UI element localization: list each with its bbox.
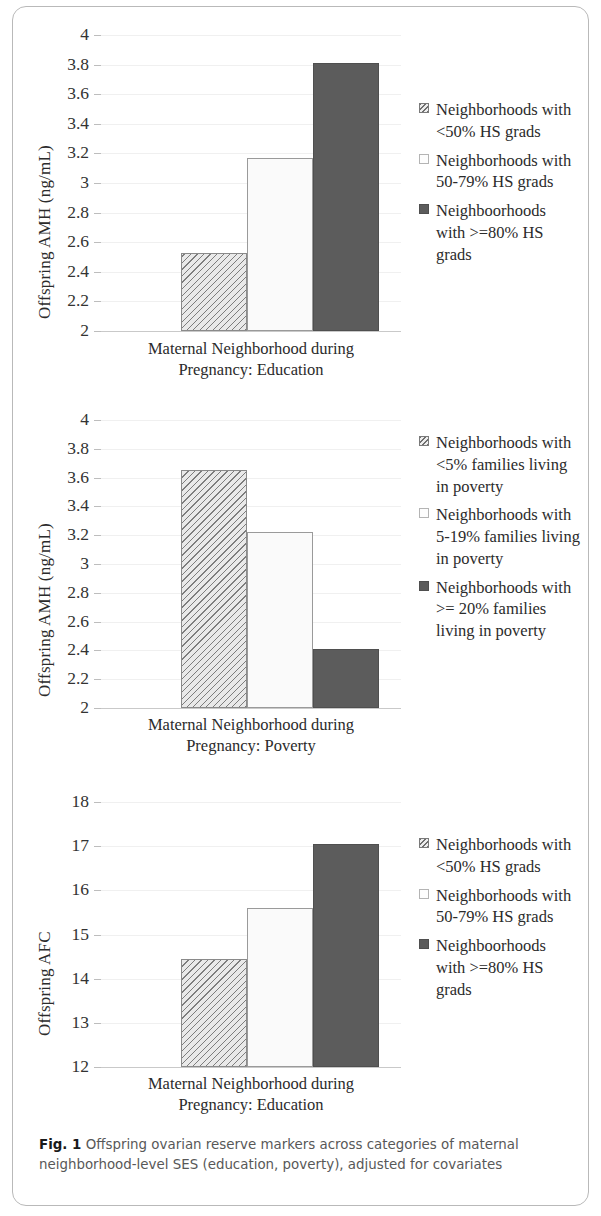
legend-swatch-icon bbox=[419, 436, 429, 446]
legend-swatch-icon bbox=[419, 581, 429, 591]
x-axis-title-2: Maternal Neighborhood during Pregnancy: … bbox=[101, 714, 401, 756]
gridline bbox=[101, 478, 401, 479]
gridline bbox=[101, 802, 401, 803]
x-axis-title-line-1: Maternal Neighborhood during bbox=[101, 714, 401, 735]
legend-item: Neighborhoods with >= 20% families livin… bbox=[419, 577, 581, 642]
legend-label: Neighboorhoods with >=80% HS grads bbox=[436, 936, 546, 999]
chart-panel-1: Offspring AMH (ng/mL) 43.83.63.43.232.82… bbox=[13, 7, 589, 397]
gridline bbox=[101, 506, 401, 507]
legend-2: Neighborhoods with <5% families living i… bbox=[419, 432, 581, 649]
y-axis-tick-mark bbox=[94, 535, 101, 536]
y-axis-tick-mark bbox=[94, 935, 101, 936]
y-axis-tick-label: 12 bbox=[37, 1058, 89, 1076]
y-axis-tick-label: 2.8 bbox=[37, 204, 89, 222]
x-axis-title-1: Maternal Neighborhood during Pregnancy: … bbox=[101, 338, 401, 380]
y-axis-tick-label: 13 bbox=[37, 1014, 89, 1032]
chart-panel-3: Offspring AFC 18171615141312 Maternal Ne… bbox=[13, 772, 589, 1137]
y-axis-tick-mark bbox=[94, 478, 101, 479]
y-axis-tick-label: 2 bbox=[37, 322, 89, 340]
y-axis-tick-mark bbox=[94, 650, 101, 651]
bar-1 bbox=[181, 470, 247, 708]
y-axis-tick-label: 2.8 bbox=[37, 584, 89, 602]
y-axis-tick-mark bbox=[94, 272, 101, 273]
legend-swatch-icon bbox=[419, 939, 429, 949]
y-axis-tick-label: 4 bbox=[37, 26, 89, 44]
y-axis-tick-mark bbox=[94, 622, 101, 623]
bar-1 bbox=[181, 959, 247, 1067]
bar-1 bbox=[181, 253, 247, 331]
plot-area-3: 18171615141312 bbox=[101, 802, 401, 1067]
y-axis-tick-mark bbox=[94, 979, 101, 980]
y-axis-tick-mark bbox=[94, 708, 101, 709]
y-axis-tick-mark bbox=[94, 449, 101, 450]
legend-item: Neighborhoods with <50% HS grads bbox=[419, 834, 579, 878]
y-axis-tick-label: 2.4 bbox=[37, 641, 89, 659]
plot-area-1: 43.83.63.43.232.82.62.42.22 bbox=[101, 35, 401, 331]
y-axis-tick-mark bbox=[94, 124, 101, 125]
legend-label: Neighborhoods with <50% HS grads bbox=[436, 835, 571, 876]
y-axis-tick-mark bbox=[94, 94, 101, 95]
plot-area-2: 43.83.63.43.232.82.62.42.22 bbox=[101, 420, 401, 708]
x-axis-title-3: Maternal Neighborhood during Pregnancy: … bbox=[101, 1073, 401, 1115]
x-axis-title-line-1: Maternal Neighborhood during bbox=[101, 338, 401, 359]
y-axis-tick-label: 15 bbox=[37, 926, 89, 944]
y-axis-tick-mark bbox=[94, 65, 101, 66]
legend-item: Neighborhoods with <5% families living i… bbox=[419, 432, 581, 497]
legend-label: Neighborhoods with >= 20% families livin… bbox=[436, 578, 571, 641]
chart-panel-2: Offspring AMH (ng/mL) 43.83.63.43.232.82… bbox=[13, 392, 589, 772]
y-axis-tick-mark bbox=[94, 1067, 101, 1068]
y-axis-tick-mark bbox=[94, 506, 101, 507]
x-axis-title-line-2: Pregnancy: Education bbox=[101, 1094, 401, 1115]
legend-swatch-icon bbox=[419, 889, 429, 899]
y-axis-tick-label: 3.4 bbox=[37, 497, 89, 515]
legend-swatch-icon bbox=[419, 154, 429, 164]
figure-caption-text: Offspring ovarian reserve markers across… bbox=[39, 1137, 519, 1172]
x-axis-line bbox=[101, 1067, 401, 1068]
legend-label: Neighborhoods with 50-79% HS grads bbox=[436, 886, 571, 927]
figure-caption-label: Fig. 1 bbox=[39, 1137, 81, 1152]
y-axis-tick-mark bbox=[94, 679, 101, 680]
y-axis-tick-label: 3 bbox=[37, 174, 89, 192]
x-axis-line bbox=[101, 331, 401, 332]
y-axis-tick-mark bbox=[94, 420, 101, 421]
x-axis-title-line-2: Pregnancy: Education bbox=[101, 359, 401, 380]
legend-item: Neighborhoods with 50-79% HS grads bbox=[419, 885, 579, 929]
bar-3 bbox=[313, 63, 379, 331]
legend-swatch-icon bbox=[419, 103, 429, 113]
bar-2 bbox=[247, 158, 313, 331]
y-axis-tick-mark bbox=[94, 564, 101, 565]
y-axis-tick-mark bbox=[94, 846, 101, 847]
y-axis-tick-mark bbox=[94, 153, 101, 154]
gridline bbox=[101, 449, 401, 450]
legend-item: Neighboorhoods with >=80% HS grads bbox=[419, 200, 579, 265]
x-axis-title-line-1: Maternal Neighborhood during bbox=[101, 1073, 401, 1094]
bar-2 bbox=[247, 908, 313, 1067]
y-axis-tick-label: 3 bbox=[37, 555, 89, 573]
y-axis-tick-label: 2.2 bbox=[37, 292, 89, 310]
legend-label: Neighborhoods with 50-79% HS grads bbox=[436, 151, 571, 192]
y-axis-tick-mark bbox=[94, 890, 101, 891]
y-axis-tick-label: 16 bbox=[37, 881, 89, 899]
figure-caption: Fig. 1 Offspring ovarian reserve markers… bbox=[39, 1135, 579, 1176]
legend-label: Neighboorhoods with >=80% HS grads bbox=[436, 201, 546, 264]
y-axis-tick-label: 4 bbox=[37, 411, 89, 429]
y-axis-tick-mark bbox=[94, 35, 101, 36]
y-axis-tick-label: 3.2 bbox=[37, 526, 89, 544]
legend-label: Neighborhoods with <5% families living i… bbox=[436, 433, 571, 496]
y-axis-tick-label: 3.6 bbox=[37, 85, 89, 103]
y-axis-tick-label: 2.6 bbox=[37, 613, 89, 631]
y-axis-tick-label: 3.4 bbox=[37, 115, 89, 133]
y-axis-tick-mark bbox=[94, 1023, 101, 1024]
y-axis-tick-mark bbox=[94, 301, 101, 302]
y-axis-tick-mark bbox=[94, 242, 101, 243]
x-axis-line bbox=[101, 708, 401, 709]
legend-3: Neighborhoods with <50% HS gradsNeighbor… bbox=[419, 834, 579, 1007]
legend-item: Neighborhoods with 50-79% HS grads bbox=[419, 150, 579, 194]
gridline bbox=[101, 35, 401, 36]
bar-3 bbox=[313, 844, 379, 1067]
y-axis-tick-mark bbox=[94, 183, 101, 184]
y-axis-tick-label: 3.6 bbox=[37, 469, 89, 487]
y-axis-tick-label: 14 bbox=[37, 970, 89, 988]
y-axis-tick-label: 3.8 bbox=[37, 56, 89, 74]
legend-swatch-icon bbox=[419, 508, 429, 518]
